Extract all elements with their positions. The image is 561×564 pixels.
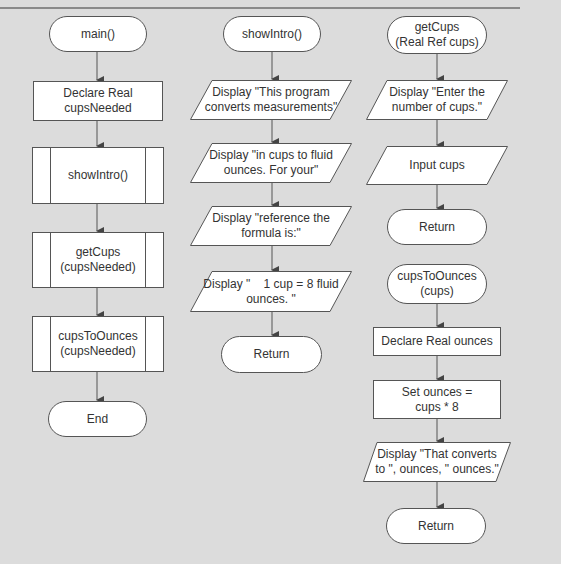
call-cupstoounces-predefined: cupsToOunces (cupsNeeded) [32,316,164,372]
showintro-display-1-label: Display "This program converts measureme… [205,85,337,115]
getcups-input-io: Input cups [366,146,508,185]
declare-cupsneeded-label: Declare Real cupsNeeded [63,86,132,116]
call-getcups-predefined: getCups (cupsNeeded) [32,232,164,288]
cupstoounces-display-label: Display "That converts to ", ounces, " o… [375,447,499,477]
showintro-display-4-io: Display " 1 cup = 8 fluid ounces. " [190,271,352,312]
showintro-display-2-label: Display "in cups to fluid ounces. For yo… [209,148,333,178]
showintro-return-label: Return [253,347,289,362]
cupstoounces-return-label: Return [418,519,454,534]
declare-ounces-process: Declare Real ounces [373,327,501,356]
showintro-return-terminal: Return [221,336,322,373]
declare-ounces-label: Declare Real ounces [381,334,492,349]
call-getcups-label: getCups (cupsNeeded) [60,245,135,275]
showintro-display-3-io: Display "reference the formula is:" [190,206,352,246]
declare-cupsneeded-process: Declare Real cupsNeeded [33,81,163,121]
main-end-label: End [87,412,108,427]
main-start-label: main() [81,27,115,42]
getcups-display-label: Display "Enter the number of cups." [389,85,485,115]
getcups-return-label: Return [419,220,455,235]
getcups-start-label: getCups (Real Ref cups) [395,20,478,50]
cupstoounces-start-terminal: cupsToOunces (cups) [387,264,487,304]
call-showintro-predefined: showIntro() [32,147,164,204]
showintro-display-2-io: Display "in cups to fluid ounces. For yo… [190,143,352,183]
cupstoounces-display-io: Display "That converts to ", ounces, " o… [363,442,511,482]
showintro-display-1-io: Display "This program converts measureme… [190,80,352,120]
showintro-start-terminal: showIntro() [223,16,321,52]
cupstoounces-start-label: cupsToOunces (cups) [397,269,476,299]
getcups-display-io: Display "Enter the number of cups." [366,80,508,120]
call-showintro-label: showIntro() [68,168,128,183]
call-cupstoounces-label: cupsToOunces (cupsNeeded) [58,329,137,359]
getcups-start-terminal: getCups (Real Ref cups) [387,16,487,54]
showintro-display-4-label: Display " 1 cup = 8 fluid ounces. " [203,277,338,307]
showintro-display-3-label: Display "reference the formula is:" [212,211,330,241]
getcups-input-label: Input cups [409,158,464,173]
cupstoounces-return-terminal: Return [386,508,486,544]
set-ounces-label: Set ounces = cups * 8 [402,385,472,415]
showintro-start-label: showIntro() [242,27,302,42]
set-ounces-process: Set ounces = cups * 8 [373,380,501,419]
main-end-terminal: End [48,401,147,437]
getcups-return-terminal: Return [387,209,487,245]
main-start-terminal: main() [49,16,147,52]
